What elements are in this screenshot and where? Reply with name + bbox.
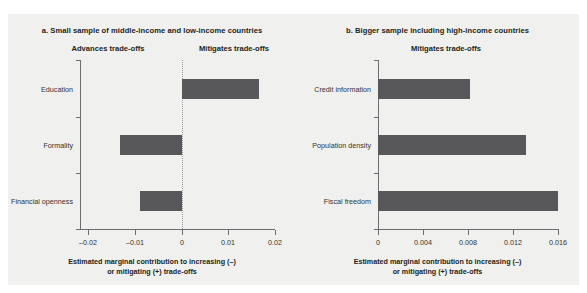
panel-a-cat-tick-top [76,60,81,61]
panel-b-xticklabel-1: 0.004 [414,238,432,247]
panel-a-axis-title: Estimated marginal contribution to incre… [8,257,296,277]
panel-b-cat-tick-top [374,60,379,61]
panel-a-xtick-3 [228,230,229,235]
bar-credit-information [378,79,470,99]
chart-panel-b: b. Bigger sample including high-income c… [296,14,579,285]
panel-a-xtick-4 [275,230,276,235]
cat-label-formality: Formality [8,141,73,150]
figure-root: of structural reforms on trade-offs a. S… [0,0,587,293]
panel-b-xticklabel-3: 0.012 [504,238,522,247]
cat-label-education: Education [8,85,73,94]
panel-a-value-axis [80,229,275,230]
panel-a-xticklabel-4: 0.02 [268,238,282,247]
panel-a-xtick-0 [88,230,89,235]
cat-label-fiscal-freedom: Fiscal freedom [296,197,371,206]
panel-a-xtick-1 [135,230,136,235]
cat-label-population-density: Population density [296,141,371,150]
bar-fiscal-freedom [378,191,558,211]
panel-b-xtick-3 [513,230,514,235]
panel-a-category-axis [80,60,81,229]
panel-b-xticklabel-2: 0.008 [459,238,477,247]
panel-b-xtick-1 [423,230,424,235]
bar-education [182,79,259,99]
panel-a-cat-tick-2 [76,173,81,174]
panel-a-xticklabel-2: 0 [180,238,184,247]
cat-label-credit-information: Credit information [296,85,371,94]
panel-b-axis-title: Estimated marginal contribution to incre… [296,257,579,277]
panel-a-plot-area: Education Formality Financial openness –… [8,14,296,285]
panel-b-cat-tick-1 [374,117,379,118]
panel-a-cat-tick-1 [76,117,81,118]
clipped-header-remnant: of structural reforms on trade-offs [0,0,587,9]
chart-panel-a: a. Small sample of middle-income and low… [8,14,296,285]
bar-financial-openness [140,191,182,211]
panel-a-xticklabel-1: –0.01 [126,238,144,247]
panel-b-xtick-2 [468,230,469,235]
panel-b-plot-area: Credit information Population density Fi… [296,14,579,285]
bar-population-density [378,135,526,155]
panel-a-xticklabel-3: 0.01 [221,238,235,247]
panel-b-axis-title-line2: or mitigating (+) trade-offs [296,267,579,277]
panel-a-xticklabel-0: –0.02 [79,238,97,247]
panel-b-xticklabel-0: 0 [376,238,380,247]
bar-formality [120,135,182,155]
cat-label-financial-openness: Financial openness [8,197,73,206]
panel-a-axis-title-line2: or mitigating (+) trade-offs [8,267,296,277]
panel-b-cat-tick-2 [374,173,379,174]
panel-b-xticklabel-4: 0.016 [549,238,567,247]
panel-b-xtick-4 [558,230,559,235]
panel-a-xtick-2 [182,230,183,235]
panel-b-axis-title-line1: Estimated marginal contribution to incre… [354,257,522,266]
panel-b-xtick-0 [378,230,379,235]
panel-a-axis-title-line1: Estimated marginal contribution to incre… [68,257,236,266]
